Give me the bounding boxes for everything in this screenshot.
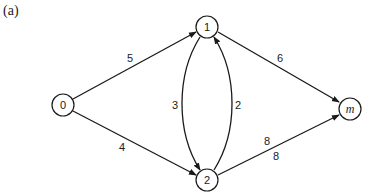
graph-diagram: 0 1 2 m 5 4 3 2 6 8 8 [0, 0, 365, 195]
node-m: m [339, 98, 361, 120]
node-1-label: 1 [204, 21, 210, 33]
edge-2-to-m [218, 115, 339, 175]
node-2-label: 2 [204, 174, 210, 186]
edge-0-to-1 [73, 32, 196, 99]
edge-label-0-1: 5 [127, 52, 133, 64]
edge-0-to-2 [73, 111, 196, 175]
edge-label-right-curve: 2 [235, 99, 241, 111]
edge-1-to-m [218, 32, 339, 102]
edge-label-2-m-bottom: 8 [273, 150, 279, 162]
node-0: 0 [52, 94, 74, 116]
node-m-label: m [346, 102, 355, 116]
node-1: 1 [196, 16, 218, 38]
edge-label-1-m: 6 [277, 52, 283, 64]
edge-right-curve-2-to-1 [214, 37, 232, 170]
edge-label-2-m-top: 8 [264, 135, 270, 147]
edge-label-left-curve: 3 [172, 99, 178, 111]
node-2: 2 [196, 169, 218, 191]
edge-left-curve-1-to-2 [182, 37, 200, 170]
node-0-label: 0 [60, 99, 66, 111]
edge-label-0-2: 4 [119, 141, 125, 153]
